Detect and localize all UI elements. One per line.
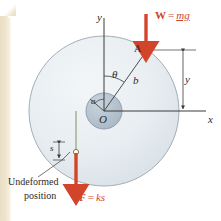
weight-symbol: W xyxy=(155,9,166,21)
origin-label: O xyxy=(99,114,107,125)
weight-equals: = xyxy=(168,9,174,21)
radius-b-label: b xyxy=(133,75,139,86)
weight-force-label: W=mg xyxy=(155,10,190,21)
theta-label: θ xyxy=(112,69,117,80)
x-axis-label: x xyxy=(208,114,213,125)
weight-value: mg xyxy=(176,9,189,21)
undeformed-label-line1: Undeformed xyxy=(8,177,59,187)
y-axis-label: y xyxy=(97,12,102,23)
figure-canvas: y x O A θ b a y s Undeformed position W=… xyxy=(0,0,221,221)
point-a-label: A xyxy=(134,44,141,54)
spring-force-label: F=ks xyxy=(79,192,105,203)
spring-symbol: F xyxy=(79,191,86,203)
radius-a-label: a xyxy=(91,97,96,106)
spring-value: ks xyxy=(96,191,105,203)
y-dimension-label: y xyxy=(185,74,190,85)
undeformed-label-line2: position xyxy=(24,191,56,201)
s-dimension-label: s xyxy=(50,144,54,153)
diagram-svg xyxy=(0,0,221,221)
spring-equals: = xyxy=(88,191,94,203)
